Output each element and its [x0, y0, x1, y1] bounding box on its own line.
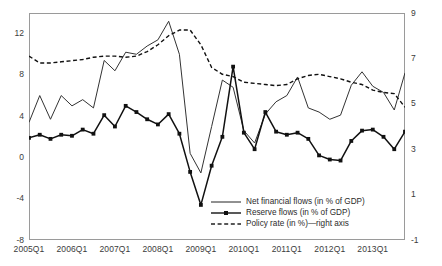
series-reserve-flows [29, 65, 405, 207]
legend-item-1[interactable]: Reserve flows (in % of GDP) [210, 207, 365, 218]
y-tick-left-0: 12 [2, 29, 24, 38]
legend-label-1: Reserve flows (in % of GDP) [242, 208, 350, 218]
y-tick-left-3: 0 [2, 153, 24, 162]
y-tick-right-2: 5 [411, 99, 435, 108]
y-tick-left-2: 4 [2, 112, 24, 121]
legend-swatch-0 [210, 197, 242, 207]
legend-item-2[interactable]: Policy rate (in %)—right axis [210, 218, 365, 229]
x-tick-2007Q1: 2007Q1 [93, 245, 137, 254]
legend-item-0[interactable]: Net financial flows (in % of GDP) [210, 196, 365, 207]
y-tick-left-5: -8 [2, 236, 24, 245]
legend-label-0: Net financial flows (in % of GDP) [242, 197, 365, 207]
x-tick-2008Q1: 2008Q1 [136, 245, 180, 254]
legend-swatch-2 [210, 219, 242, 229]
x-tick-2010Q1: 2010Q1 [222, 245, 266, 254]
x-tick-2005Q1: 2005Q1 [7, 245, 51, 254]
x-tick-2009Q1: 2009Q1 [179, 245, 223, 254]
series-policy-rate [29, 30, 405, 107]
chart-legend: Net financial flows (in % of GDP)Reserve… [210, 196, 365, 229]
y-tick-left-4: -4 [2, 194, 24, 203]
y-tick-left-1: 8 [2, 70, 24, 79]
x-tick-2012Q1: 2012Q1 [308, 245, 352, 254]
y-tick-right-5: -1 [411, 236, 435, 245]
x-tick-2013Q1: 2013Q1 [351, 245, 395, 254]
y-tick-right-4: 1 [411, 190, 435, 199]
chart-container: 12840-4-8 97531-1 2005Q12006Q12007Q12008… [0, 0, 442, 266]
legend-label-2: Policy rate (in %)—right axis [242, 219, 349, 229]
y-tick-right-1: 7 [411, 54, 435, 63]
x-tick-2006Q1: 2006Q1 [50, 245, 94, 254]
x-tick-2011Q1: 2011Q1 [265, 245, 309, 254]
y-tick-right-3: 3 [411, 145, 435, 154]
legend-swatch-1 [210, 208, 242, 218]
y-tick-right-0: 9 [411, 9, 435, 18]
